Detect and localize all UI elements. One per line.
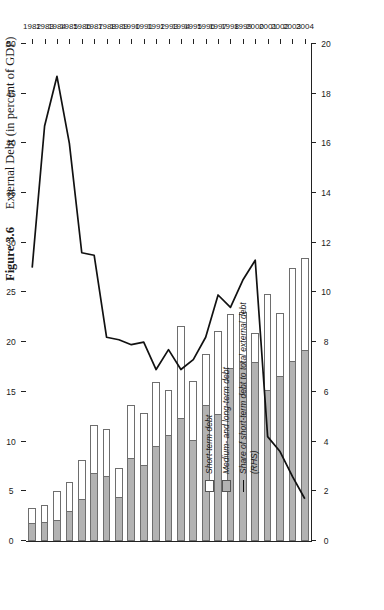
secondary-axis-tick (311, 441, 316, 442)
secondary-axis-label: 12 (321, 238, 331, 247)
legend-item-medium-long-term: Medium- and long-term debt (221, 302, 231, 492)
swatch-gray-icon (222, 480, 231, 492)
secondary-axis-label: 10 (321, 288, 331, 297)
line-series-layer (26, 44, 311, 541)
line-swatch-icon (243, 480, 244, 492)
secondary-axis-tick (311, 540, 316, 541)
legend-item-share-line: Share of short-term debt to total extern… (238, 302, 258, 492)
legend-label-medium-long-term: Medium- and long-term debt (221, 367, 231, 474)
secondary-axis-tick (311, 292, 316, 293)
value-axis-label: 15 (6, 387, 16, 396)
secondary-axis-tick (311, 242, 316, 243)
value-axis-label: 25 (6, 288, 16, 297)
value-axis-label: 20 (6, 337, 16, 346)
value-axis-label: 5 (6, 489, 16, 494)
value-axis-label: 0 (6, 539, 16, 544)
secondary-axis-tick (311, 391, 316, 392)
value-axis-label: 10 (6, 437, 16, 446)
secondary-axis-tick (311, 192, 316, 193)
secondary-axis-tick (311, 93, 316, 94)
category-label: 2004 (300, 17, 309, 35)
secondary-axis-tick (311, 490, 316, 491)
secondary-axis-label: 0 (321, 539, 331, 544)
figure-root: 1982198319841985198619871988198919901991… (0, 0, 384, 610)
figure-number: Figure 3.6 (3, 227, 17, 281)
figure-caption-wrap: Figure 3.6 External Debt (in percent of … (0, 0, 20, 281)
swatch-white-icon (205, 480, 214, 492)
secondary-axis-label: 16 (321, 139, 331, 148)
legend-label-share-line: Share of short-term debt to total extern… (238, 302, 258, 474)
secondary-axis-label: 4 (321, 439, 331, 444)
secondary-axis-label: 6 (321, 390, 331, 395)
legend-item-short-term: Short-term debt (204, 302, 214, 492)
legend-label-short-term: Short-term debt (204, 415, 214, 474)
secondary-axis-label: 8 (321, 340, 331, 345)
chart-figure: 1982198319841985198619871988198919901991… (16, 22, 368, 588)
secondary-axis-label: 14 (321, 188, 331, 197)
secondary-axis-label: 20 (321, 39, 331, 48)
plot-area: 1982198319841985198619871988198919901991… (26, 44, 312, 542)
secondary-axis-tick (311, 43, 316, 44)
secondary-axis-label: 18 (321, 89, 331, 98)
secondary-axis-tick (311, 341, 316, 342)
figure-caption: External Debt (in percent of GDP) (3, 37, 17, 210)
secondary-axis-label: 2 (321, 489, 331, 494)
secondary-axis-tick (311, 142, 316, 143)
chart-legend: Short-term debt Medium- and long-term de… (204, 302, 266, 492)
